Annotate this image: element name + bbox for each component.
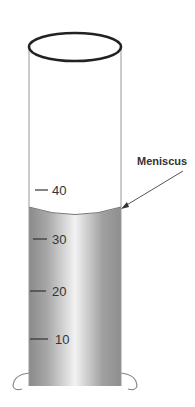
cylinder-rim (29, 33, 121, 61)
meniscus-arrow-icon (121, 171, 183, 209)
scale-40: 40 (35, 183, 66, 198)
scale-label: 40 (52, 183, 66, 198)
scale-label: 10 (55, 332, 69, 347)
scale-label: 20 (52, 284, 66, 299)
graduated-cylinder-diagram: 40 30 20 10 Meniscus (0, 0, 195, 407)
meniscus-label: Meniscus (137, 155, 187, 167)
liquid-column (29, 207, 121, 386)
scale-label: 30 (52, 232, 66, 247)
